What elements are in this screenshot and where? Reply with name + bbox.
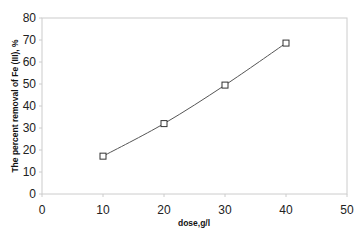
plot-area	[42, 18, 347, 194]
x-axis-label: dose,g/l	[178, 218, 210, 228]
svg-text:40: 40	[279, 203, 293, 217]
data-point-marker	[222, 82, 228, 88]
svg-text:10: 10	[23, 165, 37, 179]
chart: 01020304050607080 01020304050 dose,g/l T…	[0, 0, 364, 244]
svg-text:20: 20	[157, 203, 171, 217]
svg-text:60: 60	[23, 55, 37, 69]
svg-text:30: 30	[218, 203, 232, 217]
data-point-marker	[100, 153, 106, 159]
svg-text:0: 0	[39, 203, 46, 217]
data-point-marker	[161, 121, 167, 127]
svg-text:70: 70	[23, 33, 37, 47]
y-axis-label: The percent removal of Fe (III), %	[10, 39, 20, 173]
svg-text:50: 50	[340, 203, 354, 217]
svg-text:30: 30	[23, 121, 37, 135]
y-axis-ticks: 01020304050607080	[23, 11, 42, 201]
x-axis-ticks: 01020304050	[39, 194, 354, 217]
svg-text:20: 20	[23, 143, 37, 157]
data-point-marker	[283, 40, 289, 46]
svg-text:0: 0	[29, 187, 36, 201]
svg-text:80: 80	[23, 11, 37, 25]
svg-text:10: 10	[96, 203, 110, 217]
svg-text:40: 40	[23, 99, 37, 113]
svg-text:50: 50	[23, 77, 37, 91]
